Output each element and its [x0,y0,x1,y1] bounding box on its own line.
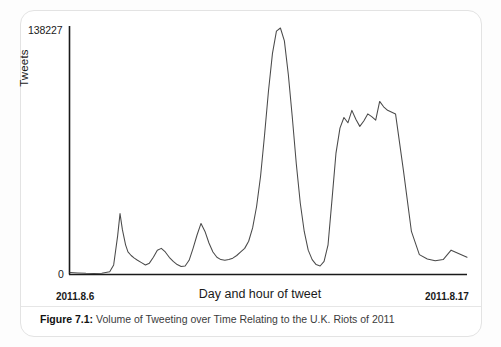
x-axis-title: Day and hour of tweet [170,287,350,301]
figure-caption-label: Figure 7.1: [40,313,93,325]
chart-axes [69,26,467,275]
tweet-volume-line [70,28,467,273]
line-chart-plot [20,10,482,305]
caption-divider [21,306,481,307]
figure-caption: Figure 7.1: Volume of Tweeting over Time… [40,312,470,326]
chart-area: 138227 0 Tweets Day and hour of tweet 20… [20,10,482,305]
x-axis-end-label: 2011.8.17 [425,291,469,302]
x-axis-start-label: 2011.8.6 [56,291,94,302]
figure-page: 138227 0 Tweets Day and hour of tweet 20… [0,0,501,347]
figure-caption-text: Volume of Tweeting over Time Relating to… [96,313,394,325]
